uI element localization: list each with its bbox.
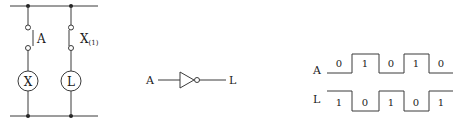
ladder-diagram: A X X(1) L (10, 4, 99, 118)
not-gate-icon (180, 72, 194, 88)
timing-chart: A 0 1 0 1 0 L 1 0 1 0 1 (312, 54, 453, 111)
contact-terminal (69, 46, 74, 51)
value-a-1: 1 (362, 58, 368, 69)
branch-1: A X (18, 6, 46, 116)
value-a-4: 0 (438, 58, 444, 69)
contact-terminal (26, 25, 31, 30)
coil-label-l: L (67, 75, 75, 89)
branch-2: X(1) L (61, 6, 99, 116)
contact-terminal (69, 25, 74, 30)
value-l-0: 1 (336, 97, 342, 108)
contact-label-x1: X(1) (80, 32, 99, 47)
gate-output-label: L (229, 74, 237, 87)
value-a-2: 0 (388, 58, 394, 69)
gate-input-label: A (145, 74, 155, 87)
value-l-2: 1 (388, 97, 394, 108)
not-gate-diagram: A L (145, 72, 237, 88)
contact-label-a: A (36, 32, 46, 46)
contact-terminal (26, 46, 31, 51)
signal-label-a: A (312, 64, 322, 77)
inversion-bubble (195, 78, 200, 83)
value-l-1: 0 (362, 97, 368, 108)
value-l-4: 1 (438, 97, 444, 108)
coil-label-x: X (24, 75, 33, 89)
diagram-canvas: A X X(1) L A L A 0 1 0 (0, 0, 462, 124)
value-l-3: 0 (413, 97, 419, 108)
value-a-3: 1 (413, 58, 419, 69)
signal-label-l: L (313, 93, 321, 106)
value-a-0: 0 (336, 58, 342, 69)
